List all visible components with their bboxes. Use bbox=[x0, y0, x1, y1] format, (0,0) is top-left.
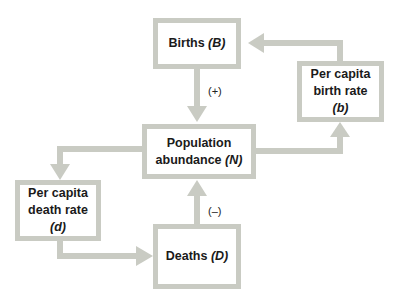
arrowhead-down-icon bbox=[50, 164, 70, 180]
deaths-node: Deaths (D) bbox=[153, 224, 241, 289]
births-label: Births bbox=[169, 36, 209, 50]
arrowhead-left-icon bbox=[248, 33, 264, 53]
population-label-1: Population bbox=[156, 135, 243, 152]
death-rate-node: Per capita death rate (d) bbox=[15, 180, 101, 241]
positive-sign-label: (+) bbox=[208, 85, 222, 97]
arrow-population-to-birthrate bbox=[255, 135, 340, 151]
population-label-2: abundance bbox=[156, 153, 225, 167]
birth-rate-label-1: Per capita bbox=[311, 66, 371, 83]
births-node: Births (B) bbox=[153, 18, 241, 69]
deaths-variable: (D) bbox=[211, 249, 228, 263]
death-rate-label-1: Per capita bbox=[28, 185, 88, 202]
death-rate-variable: (d) bbox=[28, 219, 88, 236]
population-node: Population abundance (N) bbox=[142, 124, 256, 179]
birth-rate-node: Per capita birth rate (b) bbox=[297, 61, 384, 122]
deaths-label: Deaths bbox=[166, 249, 211, 263]
negative-sign-label: (–) bbox=[208, 205, 221, 217]
population-variable: (N) bbox=[225, 153, 242, 167]
birth-rate-variable: (b) bbox=[311, 100, 371, 117]
arrowhead-up-icon bbox=[330, 122, 350, 137]
death-rate-label-2: death rate bbox=[28, 202, 88, 219]
arrow-population-to-deathrate bbox=[60, 149, 142, 166]
arrowhead-down-icon bbox=[187, 106, 207, 122]
births-variable: (B) bbox=[208, 36, 225, 50]
arrow-deathrate-to-deaths bbox=[60, 240, 138, 256]
birth-rate-label-2: birth rate bbox=[311, 83, 371, 100]
arrow-birthrate-to-births bbox=[262, 43, 340, 61]
arrowhead-up-icon bbox=[187, 180, 207, 196]
arrowhead-right-icon bbox=[136, 246, 153, 266]
